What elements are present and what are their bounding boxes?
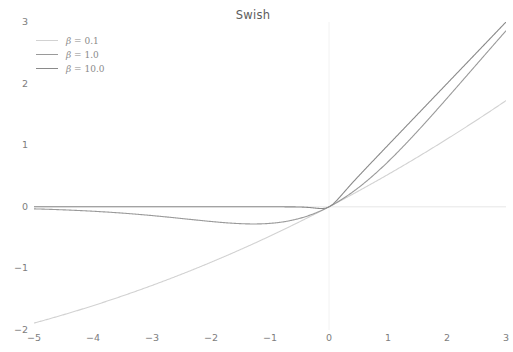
x-tick-label: −4 — [81, 332, 105, 343]
legend-item-label: β = 1.0 — [66, 48, 99, 62]
x-tick-label: −5 — [22, 332, 46, 343]
legend-item-label: β = 10.0 — [66, 62, 105, 76]
x-tick-label: 0 — [317, 332, 341, 343]
legend-item-2[interactable]: β = 10.0 — [36, 61, 156, 75]
legend-swatch-icon — [36, 40, 58, 41]
y-tick-label: 3 — [6, 16, 28, 27]
x-tick-label: 1 — [376, 332, 400, 343]
x-tick-label: 3 — [494, 332, 513, 343]
legend-item-0[interactable]: β = 0.1 — [36, 33, 156, 47]
y-tick-label: 0 — [6, 201, 28, 212]
legend-item-1[interactable]: β = 1.0 — [36, 47, 156, 61]
legend: β = 0.1β = 1.0β = 10.0 — [36, 33, 156, 75]
x-tick-label: 2 — [435, 332, 459, 343]
legend-item-label: β = 0.1 — [66, 34, 99, 48]
y-tick-label: 1 — [6, 139, 28, 150]
x-tick-label: −2 — [199, 332, 223, 343]
page-title: Swish — [0, 8, 506, 22]
y-tick-label: −1 — [6, 262, 28, 273]
x-tick-label: −3 — [140, 332, 164, 343]
x-tick-label: −1 — [258, 332, 282, 343]
legend-swatch-icon — [36, 54, 58, 55]
legend-swatch-icon — [36, 68, 58, 69]
y-tick-label: 2 — [6, 78, 28, 89]
